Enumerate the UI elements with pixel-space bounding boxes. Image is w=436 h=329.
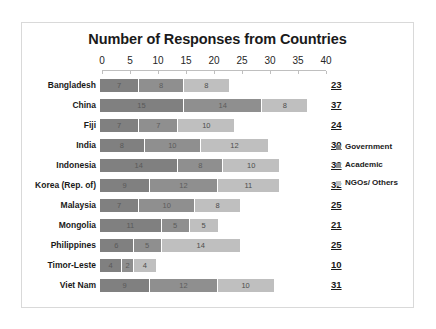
bar-row: Bangladesh78823 bbox=[22, 75, 413, 95]
x-tick-mark bbox=[326, 71, 327, 74]
x-tick-mark bbox=[102, 71, 103, 74]
bar-segment: 10 bbox=[178, 119, 234, 132]
bar-total-label: 24 bbox=[331, 120, 342, 130]
legend-label: Government bbox=[345, 143, 392, 151]
category-label: Mongolia bbox=[22, 221, 100, 230]
bar-segment: 8 bbox=[139, 79, 184, 92]
bar-segment: 10 bbox=[223, 159, 279, 172]
bar-segment: 10 bbox=[145, 139, 201, 152]
bar-segment: 5 bbox=[162, 219, 190, 232]
x-axis-tick-labels: 0510152025303540 bbox=[102, 55, 326, 69]
x-tick-mark bbox=[186, 71, 187, 74]
bar-segment: 10 bbox=[139, 199, 195, 212]
bar-segment: 10 bbox=[218, 279, 274, 292]
legend-swatch-icon bbox=[336, 181, 341, 186]
bar-segment: 11 bbox=[218, 179, 280, 192]
category-label: China bbox=[22, 101, 100, 110]
legend-item[interactable]: NGOs/ Others bbox=[336, 179, 418, 187]
stacked-bar: 81012 bbox=[100, 139, 324, 152]
bar-segment: 9 bbox=[100, 279, 150, 292]
bar-total-label: 37 bbox=[331, 100, 342, 110]
legend-item[interactable]: Academic bbox=[336, 161, 418, 169]
bar-total-label: 21 bbox=[331, 220, 342, 230]
bar-segment: 7 bbox=[100, 119, 139, 132]
category-label: Timor-Leste bbox=[22, 261, 100, 270]
bar-segment: 12 bbox=[201, 139, 268, 152]
bar-total-label: 31 bbox=[331, 280, 342, 290]
stacked-bar: 14810 bbox=[100, 159, 324, 172]
legend-swatch-icon bbox=[336, 145, 341, 150]
stacked-bar: 7108 bbox=[100, 199, 324, 212]
bar-total-label: 25 bbox=[331, 240, 342, 250]
bar-segment: 12 bbox=[150, 279, 217, 292]
stacked-bar: 1155 bbox=[100, 219, 324, 232]
x-tick-label: 15 bbox=[180, 55, 191, 66]
bar-row: Fiji771024 bbox=[22, 115, 413, 135]
category-label: Indonesia bbox=[22, 161, 100, 170]
category-label: Philippines bbox=[22, 241, 100, 250]
bar-segment: 8 bbox=[262, 99, 307, 112]
x-tick-mark bbox=[214, 71, 215, 74]
bar-segment: 7 bbox=[100, 79, 139, 92]
stacked-bar: 15148 bbox=[100, 99, 324, 112]
bar-total-label: 23 bbox=[331, 80, 342, 90]
chart-title: Number of Responses from Countries bbox=[22, 31, 413, 47]
x-tick-label: 40 bbox=[320, 55, 331, 66]
bar-segment: 8 bbox=[178, 159, 223, 172]
x-tick-label: 0 bbox=[99, 55, 105, 66]
bar-row: Viet Nam9121031 bbox=[22, 275, 413, 295]
legend-label: Academic bbox=[345, 161, 383, 169]
category-label: Korea (Rep. of) bbox=[22, 181, 100, 190]
bar-segment: 7 bbox=[139, 119, 178, 132]
stacked-bar: 91211 bbox=[100, 179, 324, 192]
x-tick-label: 25 bbox=[236, 55, 247, 66]
bar-total-label: 25 bbox=[331, 200, 342, 210]
bar-segment: 7 bbox=[100, 199, 139, 212]
x-tick-mark bbox=[270, 71, 271, 74]
bar-segment: 14 bbox=[162, 239, 240, 252]
stacked-bar: 7710 bbox=[100, 119, 324, 132]
legend-label: NGOs/ Others bbox=[345, 179, 398, 187]
bar-segment: 4 bbox=[100, 259, 122, 272]
category-label: Bangladesh bbox=[22, 81, 100, 90]
category-label: India bbox=[22, 141, 100, 150]
stacked-bar: 424 bbox=[100, 259, 324, 272]
category-label: Fiji bbox=[22, 121, 100, 130]
x-tick-label: 30 bbox=[264, 55, 275, 66]
bar-segment: 9 bbox=[100, 179, 150, 192]
category-label: Viet Nam bbox=[22, 281, 100, 290]
bar-row: Philippines651425 bbox=[22, 235, 413, 255]
bar-segment: 8 bbox=[195, 199, 240, 212]
x-tick-label: 5 bbox=[127, 55, 133, 66]
x-tick-mark bbox=[298, 71, 299, 74]
x-tick-mark bbox=[158, 71, 159, 74]
x-tick-label: 35 bbox=[292, 55, 303, 66]
bar-segment: 8 bbox=[100, 139, 145, 152]
stacked-bar: 788 bbox=[100, 79, 324, 92]
bar-row: China1514837 bbox=[22, 95, 413, 115]
x-tick-label: 10 bbox=[152, 55, 163, 66]
x-tick-label: 20 bbox=[208, 55, 219, 66]
bar-row: Mongolia115521 bbox=[22, 215, 413, 235]
legend-swatch-icon bbox=[336, 163, 341, 168]
stacked-bar: 6514 bbox=[100, 239, 324, 252]
chart-legend: GovernmentAcademicNGOs/ Others bbox=[336, 143, 418, 197]
bar-segment: 11 bbox=[100, 219, 162, 232]
bar-segment: 8 bbox=[184, 79, 229, 92]
bar-segment: 14 bbox=[184, 99, 262, 112]
x-tick-mark bbox=[242, 71, 243, 74]
bar-row: Malaysia710825 bbox=[22, 195, 413, 215]
bar-segment: 14 bbox=[100, 159, 178, 172]
bar-segment: 4 bbox=[134, 259, 156, 272]
bar-segment: 2 bbox=[122, 259, 133, 272]
bar-total-label: 10 bbox=[331, 260, 342, 270]
bar-segment: 5 bbox=[190, 219, 218, 232]
bar-segment: 15 bbox=[100, 99, 184, 112]
category-label: Malaysia bbox=[22, 201, 100, 210]
bar-segment: 6 bbox=[100, 239, 134, 252]
bar-row: Timor-Leste42410 bbox=[22, 255, 413, 275]
legend-item[interactable]: Government bbox=[336, 143, 418, 151]
x-tick-mark bbox=[130, 71, 131, 74]
chart-frame: Number of Responses from Countries 05101… bbox=[21, 22, 414, 308]
x-axis-ticks bbox=[102, 71, 326, 74]
